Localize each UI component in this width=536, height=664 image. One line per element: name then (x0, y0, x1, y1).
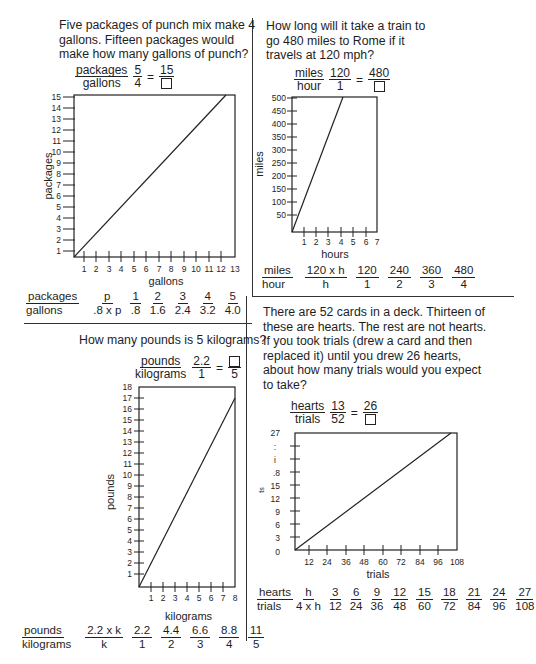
right-fraction: 15 (159, 64, 174, 89)
svg-text:16: 16 (123, 404, 133, 414)
cell-denominator: 1.6 (150, 304, 166, 317)
svg-text:7: 7 (157, 264, 162, 274)
left-denominator: 52 (330, 413, 345, 425)
svg-text:3: 3 (326, 237, 331, 247)
cell-denominator: 3 (197, 638, 203, 651)
x-axis-label: hours (321, 248, 349, 260)
svg-text:17: 17 (123, 393, 133, 403)
cell-numerator: 6 (351, 586, 361, 600)
svg-text:12: 12 (52, 125, 62, 135)
problem2-table: miles hour 120 x hh 1201 2402 3603 4804 (262, 264, 484, 290)
table-cell: 8.84 (219, 624, 239, 650)
svg-text:2: 2 (314, 237, 319, 247)
right-fraction: 5 (228, 355, 241, 380)
table-cell: 1248 (391, 586, 408, 612)
cell-denominator: 48 (393, 600, 406, 613)
svg-text:2: 2 (127, 558, 132, 568)
svg-text:250: 250 (272, 158, 286, 168)
table-cell: 1872 (441, 586, 458, 612)
table-label: packages gallons (26, 290, 79, 316)
y-axis-label: miles (255, 151, 265, 177)
svg-text:10: 10 (123, 470, 133, 480)
unit-denominator: gallons (82, 77, 122, 89)
svg-text:60: 60 (378, 557, 388, 567)
svg-text:11: 11 (205, 264, 214, 274)
table-cell: 312 (329, 586, 342, 612)
unit-denominator: kilograms (134, 368, 187, 380)
svg-text:12: 12 (123, 448, 133, 458)
cell-numerator: 6.6 (190, 624, 210, 638)
data-line (139, 398, 235, 587)
svg-text:72: 72 (396, 557, 406, 567)
svg-text:1: 1 (302, 237, 307, 247)
equals-sign: = (356, 73, 363, 87)
table-cell: 120 x hh (305, 264, 347, 290)
vertical-divider-bottom (246, 296, 247, 641)
svg-text:3: 3 (56, 224, 61, 234)
svg-text:4: 4 (119, 264, 124, 274)
x-axis-label: kilograms (165, 610, 212, 622)
left-denominator: 1 (197, 368, 206, 380)
y-axis-ticks: 500450400 350300250 200150100 50 (272, 93, 286, 220)
table-cell: 1201 (356, 264, 379, 290)
problem4-table: hearts trials h4 x h 312 624 936 1248 15… (257, 586, 534, 612)
svg-text:50: 50 (277, 210, 287, 220)
label-denominator: trials (257, 600, 281, 613)
table-cell: 624 (350, 586, 363, 612)
table-cell: 2402 (388, 264, 411, 290)
svg-text:6: 6 (127, 514, 132, 524)
svg-text:9: 9 (127, 481, 132, 491)
table-cell: 4.42 (161, 624, 181, 650)
question-line: replaced it) until you drew 26 hearts, (263, 349, 486, 364)
svg-text:11: 11 (52, 136, 61, 146)
label-denominator: hour (262, 278, 285, 291)
y-axis-label: packages (42, 152, 54, 200)
cell-numerator: 5 (228, 290, 238, 304)
left-denominator: 1 (336, 80, 345, 92)
svg-text:400: 400 (272, 119, 286, 129)
unit-fraction: miles hour (294, 67, 324, 92)
table-cell: 2184 (466, 586, 483, 612)
svg-text:450: 450 (272, 106, 286, 116)
cell-numerator: 4.4 (161, 624, 181, 638)
chart-frame (139, 387, 235, 587)
x-axis-label: trials (366, 568, 390, 580)
x-axis-ticks: 122436 486072 8496108 (304, 557, 464, 567)
cell-numerator: 2.2 (132, 624, 152, 638)
cell-denominator: 4 (226, 638, 232, 651)
cell-denominator: 96 (492, 600, 505, 613)
horizontal-divider-left (24, 323, 252, 324)
question-line: travels at 120 mph? (266, 48, 425, 63)
svg-text:5: 5 (127, 525, 132, 535)
table-cell: 1560 (416, 586, 433, 612)
question-line: How many pounds is 5 kilograms? (79, 333, 266, 348)
cell-denominator: .8 x p (93, 304, 121, 317)
svg-text:1: 1 (82, 264, 87, 274)
cell-denominator: 3.2 (200, 304, 216, 317)
equals-sign: = (147, 70, 154, 84)
equals-sign: = (351, 406, 358, 420)
cell-denominator: 72 (443, 600, 456, 613)
question-line: There are 52 cards in a deck. Thirteen o… (263, 305, 486, 320)
cell-denominator: 4 (461, 278, 467, 291)
cell-denominator: 4.0 (225, 304, 241, 317)
cell-numerator: 21 (466, 586, 483, 600)
unit-fraction: pounds kilograms (134, 355, 187, 380)
cell-denominator: h (323, 278, 329, 291)
table-cell: h4 x h (296, 586, 321, 612)
cell-numerator: 2.2 x k (85, 624, 123, 638)
svg-text:27: 27 (271, 428, 281, 438)
label-numerator: packages (26, 290, 79, 304)
cell-numerator: 240 (388, 264, 411, 278)
problem1-question: Five packages of punch mix make 4 gallon… (59, 18, 255, 62)
svg-text:6: 6 (144, 264, 149, 274)
svg-text:6: 6 (209, 593, 214, 603)
problem2-equation: miles hour 120 1 = 480 (294, 67, 390, 92)
table-cell: 43.2 (200, 290, 216, 316)
svg-text:1: 1 (127, 569, 132, 579)
svg-text:200: 200 (272, 171, 286, 181)
svg-text:9: 9 (275, 507, 280, 517)
svg-text:9: 9 (56, 158, 61, 168)
svg-text:3: 3 (275, 533, 280, 543)
left-fraction: 120 1 (329, 67, 351, 92)
